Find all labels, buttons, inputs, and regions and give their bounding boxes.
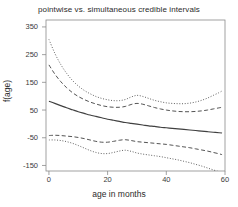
plot-canvas <box>0 0 238 207</box>
plot-frame <box>46 20 225 171</box>
chart-figure: pointwise vs. simultaneous credible inte… <box>0 0 238 207</box>
data-series <box>49 39 222 173</box>
series-line <box>49 101 222 133</box>
axis-ticks <box>42 27 225 175</box>
series-line <box>49 135 222 154</box>
axes-frame <box>46 20 225 171</box>
series-line <box>49 65 222 112</box>
series-line <box>49 140 222 173</box>
